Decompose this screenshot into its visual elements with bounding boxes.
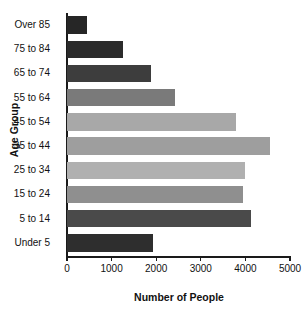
- bar-row: 75 to 84: [67, 37, 290, 61]
- bar-row: 45 to 54: [67, 110, 290, 134]
- category-label: 55 to 64: [0, 86, 50, 110]
- bar: [67, 210, 251, 227]
- bar: [67, 89, 175, 106]
- category-label: 5 to 14: [0, 207, 50, 231]
- bar-row: 5 to 14: [67, 207, 290, 231]
- x-tick-mark: [245, 256, 246, 261]
- bar: [67, 41, 123, 58]
- bar: [67, 113, 236, 130]
- bar: [67, 137, 270, 154]
- chart-title: [0, 0, 304, 1]
- x-axis-title: Number of People: [60, 291, 298, 303]
- x-tick-mark: [156, 256, 157, 261]
- x-tick-mark: [200, 256, 201, 261]
- x-tick-label: 5000: [279, 263, 301, 274]
- x-tick-mark: [289, 256, 290, 261]
- plot-area: Over 8575 to 8465 to 7455 to 6445 to 543…: [67, 13, 290, 255]
- category-label: 25 to 34: [0, 158, 50, 182]
- category-label: 35 to 44: [0, 134, 50, 158]
- x-tick-mark: [66, 256, 67, 261]
- category-label: Under 5: [0, 231, 50, 255]
- category-label: 15 to 24: [0, 182, 50, 206]
- bar: [67, 162, 245, 179]
- x-axis-line: [66, 256, 291, 258]
- category-label: 75 to 84: [0, 37, 50, 61]
- x-tick-label: 0: [64, 263, 70, 274]
- category-label: 45 to 54: [0, 110, 50, 134]
- x-tick-label: 1000: [100, 263, 122, 274]
- bar-chart: Age Group 010002000300040005000 Over 857…: [0, 0, 304, 312]
- x-tick-label: 4000: [234, 263, 256, 274]
- bar-row: 55 to 64: [67, 86, 290, 110]
- bar-row: 15 to 24: [67, 182, 290, 206]
- bar-row: 35 to 44: [67, 134, 290, 158]
- bar-row: 25 to 34: [67, 158, 290, 182]
- x-tick-label: 3000: [190, 263, 212, 274]
- bar: [67, 186, 243, 203]
- x-tick-label: 2000: [145, 263, 167, 274]
- category-label: Over 85: [0, 13, 50, 37]
- x-tick-mark: [111, 256, 112, 261]
- bar: [67, 234, 153, 251]
- bar: [67, 16, 87, 33]
- bar: [67, 65, 151, 82]
- bar-row: 65 to 74: [67, 61, 290, 85]
- category-label: 65 to 74: [0, 61, 50, 85]
- bar-row: Over 85: [67, 13, 290, 37]
- bar-row: Under 5: [67, 231, 290, 255]
